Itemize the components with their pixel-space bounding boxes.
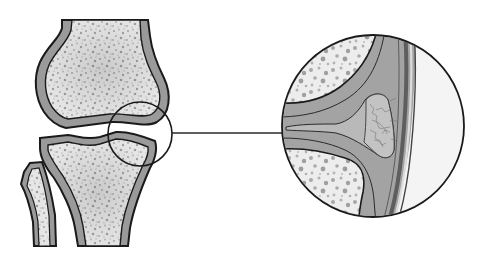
diagram-canvas [0, 0, 480, 255]
femur [36, 20, 169, 128]
knee-joint-diagram: Knee joint with magnified view of joint … [0, 0, 480, 255]
magnified-view [280, 30, 466, 225]
tibia [40, 132, 156, 246]
